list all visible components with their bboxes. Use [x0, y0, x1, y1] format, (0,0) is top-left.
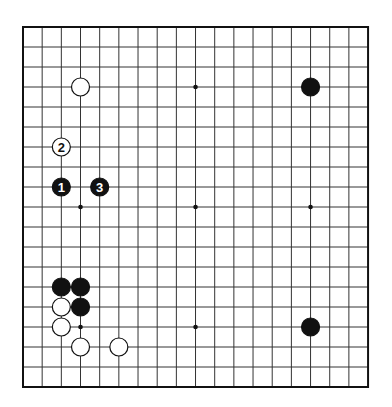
go-board[interactable]: 213 [0, 0, 392, 407]
move-number: 3 [96, 180, 103, 195]
star-point [193, 205, 198, 210]
black-stone [302, 318, 320, 336]
stone-disc [52, 318, 70, 336]
stones-layer: 213 [52, 78, 319, 356]
star-point [78, 205, 83, 210]
stone-disc [52, 298, 70, 316]
black-stone: 3 [91, 178, 109, 196]
black-stone [302, 78, 320, 96]
star-point [193, 85, 198, 90]
star-point [78, 325, 83, 330]
white-stone [110, 338, 128, 356]
white-stone [72, 78, 90, 96]
white-stone [72, 338, 90, 356]
move-number: 2 [58, 140, 65, 155]
stone-disc [302, 78, 320, 96]
black-stone [72, 298, 90, 316]
white-stone [52, 318, 70, 336]
stone-disc [72, 78, 90, 96]
white-stone [52, 298, 70, 316]
black-stone [52, 278, 70, 296]
stone-disc [302, 318, 320, 336]
stone-disc [110, 338, 128, 356]
black-stone [72, 278, 90, 296]
move-number: 1 [58, 180, 65, 195]
stone-disc [72, 338, 90, 356]
black-stone: 1 [52, 178, 70, 196]
stone-disc [72, 278, 90, 296]
stone-disc [72, 298, 90, 316]
white-stone: 2 [52, 138, 70, 156]
star-point [308, 205, 313, 210]
star-point [193, 325, 198, 330]
stone-disc [52, 278, 70, 296]
